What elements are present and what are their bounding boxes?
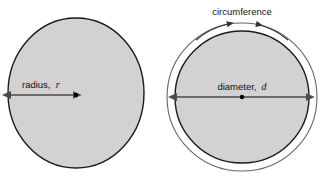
circumference-label: circumference <box>212 6 272 17</box>
diameter-center-dot <box>240 95 244 99</box>
radius-label-variable: r <box>56 79 60 90</box>
diagram-canvas: radius, r diameter, d circumference <box>0 0 324 180</box>
diameter-label-text: diameter, <box>217 81 256 92</box>
radius-label-text: radius, <box>22 79 51 90</box>
diameter-circle-group: diameter, d circumference <box>167 6 317 171</box>
circle-geometry-diagram: radius, r diameter, d circumference <box>0 0 324 180</box>
radius-circle-group: radius, r <box>8 18 144 168</box>
radius-center-dot <box>74 93 78 97</box>
